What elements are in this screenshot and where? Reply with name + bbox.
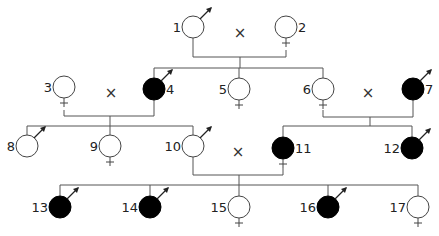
individual-label: 13	[31, 200, 48, 215]
male-arrow-icon	[419, 128, 431, 140]
affected-circle	[317, 196, 339, 218]
female-cross-icon	[235, 218, 243, 227]
individual-label: 17	[389, 200, 406, 215]
male-arrow-icon	[200, 126, 212, 138]
individual-label: 12	[383, 141, 400, 156]
unaffected-circle	[312, 78, 334, 100]
individual-11: 11	[272, 137, 312, 168]
individual-9: 9	[90, 135, 121, 166]
pedigree-diagram: × × × × 1234567891011121314151617	[0, 0, 439, 236]
female-cross-icon	[414, 218, 422, 227]
individual-5: 5	[219, 78, 250, 109]
individual-4: 4	[143, 69, 174, 100]
pedigree-canvas: × × × × 1234567891011121314151617	[0, 0, 439, 236]
individual-12: 12	[383, 128, 431, 159]
male-arrow-icon	[161, 69, 173, 81]
individual-label: 4	[166, 82, 174, 97]
individual-8: 8	[7, 126, 46, 157]
individual-16: 16	[299, 187, 347, 218]
affected-circle	[401, 137, 423, 159]
male-arrow-icon	[67, 187, 79, 199]
individual-7: 7	[402, 69, 433, 100]
individual-label: 5	[219, 82, 227, 97]
individual-label: 8	[7, 139, 15, 154]
female-cross-icon	[279, 159, 287, 168]
unaffected-circle	[182, 135, 204, 157]
individual-14: 14	[121, 187, 169, 218]
individual-6: 6	[303, 78, 334, 109]
affected-circle	[272, 137, 294, 159]
affected-circle	[139, 196, 161, 218]
mating-cross-10-11: ×	[232, 143, 245, 161]
mating-cross-6-7: ×	[362, 84, 375, 102]
male-arrow-icon	[200, 7, 212, 19]
individual-label: 7	[425, 82, 433, 97]
mating-cross-3-4: ×	[105, 84, 118, 102]
female-cross-icon	[319, 100, 327, 109]
individual-2: 2	[275, 16, 306, 47]
unaffected-circle	[228, 78, 250, 100]
unaffected-circle	[182, 16, 204, 38]
individual-3: 3	[44, 76, 75, 107]
individual-label: 10	[164, 139, 181, 154]
individual-label: 11	[295, 141, 312, 156]
unaffected-circle	[228, 196, 250, 218]
male-arrow-icon	[420, 69, 432, 81]
female-cross-icon	[282, 38, 290, 47]
male-arrow-icon	[157, 187, 169, 199]
individual-1: 1	[173, 7, 212, 38]
individual-label: 15	[210, 200, 227, 215]
male-arrow-icon	[34, 126, 46, 138]
female-cross-icon	[60, 98, 68, 107]
individual-label: 1	[173, 20, 181, 35]
female-cross-icon	[235, 100, 243, 109]
affected-circle	[49, 196, 71, 218]
individual-label: 14	[121, 200, 138, 215]
individual-label: 9	[90, 139, 98, 154]
connector-lines	[27, 38, 418, 196]
affected-circle	[143, 78, 165, 100]
individual-10: 10	[164, 126, 212, 157]
unaffected-circle	[407, 196, 429, 218]
individual-17: 17	[389, 196, 429, 227]
individual-label: 6	[303, 82, 311, 97]
female-cross-icon	[106, 157, 114, 166]
individual-label: 3	[44, 80, 52, 95]
individual-13: 13	[31, 187, 79, 218]
mating-cross-1-2: ×	[234, 24, 247, 42]
unaffected-circle	[99, 135, 121, 157]
unaffected-circle	[16, 135, 38, 157]
individual-15: 15	[210, 196, 250, 227]
male-arrow-icon	[335, 187, 347, 199]
individual-label: 2	[298, 20, 306, 35]
affected-circle	[402, 78, 424, 100]
individual-label: 16	[299, 200, 316, 215]
unaffected-circle	[53, 76, 75, 98]
unaffected-circle	[275, 16, 297, 38]
